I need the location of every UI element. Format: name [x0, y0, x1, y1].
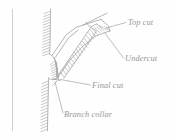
leader-final-cut [61, 80, 91, 86]
label-top-cut: Top cut [128, 19, 153, 27]
branch-limb [52, 13, 110, 78]
leader-top-cut [106, 23, 126, 29]
figure-page: Top cut Undercut Final cut Branch collar [0, 0, 176, 140]
label-final-cut: Final cut [92, 82, 123, 90]
leader-branch-collar [55, 82, 63, 113]
label-branch-collar: Branch collar [64, 111, 112, 119]
trunk [41, 9, 51, 132]
cut-face-hatching [59, 26, 110, 78]
label-undercut: Undercut [125, 55, 157, 63]
leader-undercut [105, 33, 124, 58]
